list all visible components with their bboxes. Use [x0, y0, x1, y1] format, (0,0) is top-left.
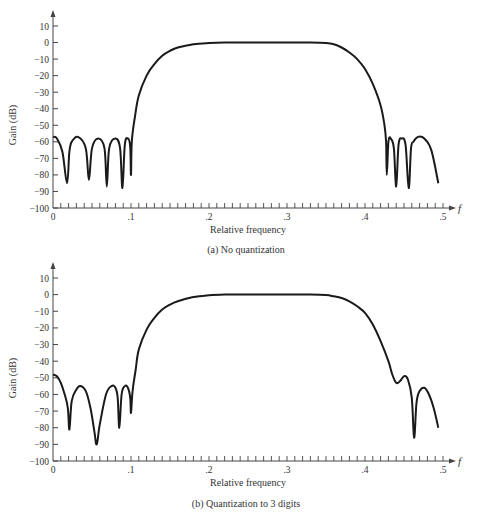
x-tick-label: .1	[127, 465, 134, 475]
y-tick-label: −80	[34, 423, 49, 433]
x-tick-label: .1	[127, 212, 134, 222]
panel-a-x-axis-label: Relative frequency	[210, 224, 286, 235]
y-tick-label: −90	[34, 440, 49, 450]
x-tick-label: .3	[283, 212, 290, 222]
y-tick-label: −20	[34, 323, 49, 333]
y-tick-label: −90	[34, 187, 49, 197]
x-tick-label: .2	[205, 465, 212, 475]
y-tick-label: −10	[34, 55, 49, 65]
y-tick-label: −50	[34, 121, 49, 131]
panel-a-y-axis-label: Gain (dB)	[7, 105, 19, 145]
x-tick-label: .5	[439, 212, 446, 222]
panel-a-no-quantization: 100−10−20−30−40−50−60−70−80−90−1000.1.2.…	[7, 10, 463, 256]
x-tick-label: 0	[51, 212, 56, 222]
y-tick-label: −40	[34, 104, 49, 114]
y-tick-label: −70	[34, 407, 49, 417]
x-tick-label: .4	[361, 212, 368, 222]
panel-a-caption: (a) No quantization	[207, 244, 285, 256]
y-tick-label: 0	[44, 38, 49, 48]
y-tick-label: −50	[34, 373, 49, 383]
x-tick-label: .4	[361, 465, 368, 475]
panel-a-x-symbol: f	[458, 202, 463, 214]
x-tick-label: .3	[283, 465, 290, 475]
y-tick-label: −80	[34, 170, 49, 180]
y-tick-label: −100	[29, 204, 49, 214]
panel-a-gain-curve	[53, 43, 438, 189]
y-tick-label: −30	[34, 340, 49, 350]
y-tick-label: −10	[34, 307, 49, 317]
y-tick-label: −30	[34, 88, 49, 98]
y-tick-label: −100	[29, 457, 49, 467]
panel-b-y-axis-label: Gain (dB)	[7, 358, 19, 398]
x-tick-label: 0	[51, 465, 56, 475]
panel-b-x-axis-label: Relative frequency	[210, 477, 286, 488]
panel-b-caption: (b) Quantization to 3 digits	[192, 498, 300, 510]
y-tick-label: 10	[40, 274, 50, 284]
y-tick-label: −70	[34, 154, 49, 164]
panel-b-gain-curve	[53, 295, 438, 445]
y-tick-label: −60	[34, 390, 49, 400]
y-tick-label: 0	[44, 290, 49, 300]
y-tick-label: −60	[34, 137, 49, 147]
y-tick-label: 10	[40, 22, 50, 32]
filter-response-figure: 100−10−20−30−40−50−60−70−80−90−1000.1.2.…	[0, 0, 478, 513]
x-tick-label: .2	[205, 212, 212, 222]
panel-b-x-symbol: f	[458, 455, 463, 467]
x-tick-label: .5	[439, 465, 446, 475]
y-tick-label: −40	[34, 357, 49, 367]
y-tick-label: −20	[34, 71, 49, 81]
panel-b-quantization-3-digits: 100−10−20−30−40−50−60−70−80−90−1000.1.2.…	[7, 262, 463, 510]
